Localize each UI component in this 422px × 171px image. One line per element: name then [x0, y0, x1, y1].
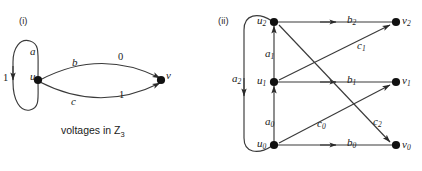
panel-i-caption-subscript: 3 — [121, 130, 125, 139]
edge-b-path — [40, 63, 160, 80]
node-u2-dot — [270, 18, 278, 26]
edge-a-label: a — [30, 46, 36, 57]
panel-i-caption: voltages in Z3 — [61, 125, 125, 139]
edge-a1-subscript: 1 — [271, 52, 275, 61]
edge-a-voltage: 1 — [3, 73, 8, 84]
edge-b-label: b — [72, 57, 78, 68]
edge-c2-subscript: 2 — [378, 120, 382, 129]
edge-c1-path — [279, 25, 390, 80]
node-u0-dot — [270, 141, 278, 149]
edge-a1-label: a1 — [265, 48, 274, 61]
node-u0-subscript: 0 — [263, 142, 267, 151]
node-v1-dot — [392, 78, 400, 86]
node-v-label: v — [166, 70, 171, 81]
node-v-dot — [157, 76, 165, 84]
node-v2-dot — [392, 18, 400, 26]
node-v1-subscript: 1 — [407, 79, 411, 88]
edge-c1-label: c1 — [357, 40, 366, 53]
panel-ii-tag: (ii) — [218, 16, 229, 26]
edge-c-label: c — [71, 96, 76, 107]
figure-svg — [0, 0, 422, 171]
edge-a0-subscript: 0 — [271, 120, 275, 129]
node-u1-dot — [270, 78, 278, 86]
edge-c-path — [40, 82, 160, 98]
edge-a2-subscript: 2 — [238, 77, 242, 86]
edge-c-voltage: 1 — [119, 90, 124, 101]
panel-i-caption-text: voltages in Z — [61, 124, 121, 136]
edge-b1-label: b1 — [347, 74, 356, 87]
node-v0-subscript: 0 — [407, 143, 411, 152]
edge-b0-subscript: 0 — [353, 141, 357, 150]
edge-b1-subscript: 1 — [353, 78, 357, 87]
node-v2-subscript: 2 — [407, 19, 411, 28]
panel-i-tag: (i) — [19, 16, 27, 26]
node-v0-label: v0 — [402, 139, 411, 152]
node-u1-subscript: 1 — [263, 79, 267, 88]
edge-c0-path — [279, 85, 390, 143]
node-v1-label: v1 — [402, 75, 411, 88]
edge-c2-label: c2 — [373, 116, 382, 129]
node-v2-label: v2 — [402, 15, 411, 28]
node-u0-label: u0 — [257, 138, 266, 151]
node-u1-label: u1 — [257, 75, 266, 88]
node-v0-dot — [392, 141, 400, 149]
edge-a0-label: a0 — [265, 116, 274, 129]
panel-ii-graphics — [244, 16, 400, 152]
edge-c0-label: c0 — [317, 118, 326, 131]
node-u-label: u — [30, 71, 36, 82]
node-u2-subscript: 2 — [263, 19, 267, 28]
edge-c1-subscript: 1 — [362, 44, 366, 53]
edge-a2-label: a2 — [232, 73, 241, 86]
node-u2-label: u2 — [257, 15, 266, 28]
edge-b-voltage: 0 — [118, 52, 123, 63]
edge-b2-label: b2 — [347, 14, 356, 27]
figure-canvas: (i) a 1 b 0 c 1 u v voltages in Z3 (ii) … — [0, 0, 422, 171]
edge-b0-label: b0 — [347, 137, 356, 150]
edge-c0-subscript: 0 — [322, 122, 326, 131]
edge-b2-subscript: 2 — [353, 18, 357, 27]
